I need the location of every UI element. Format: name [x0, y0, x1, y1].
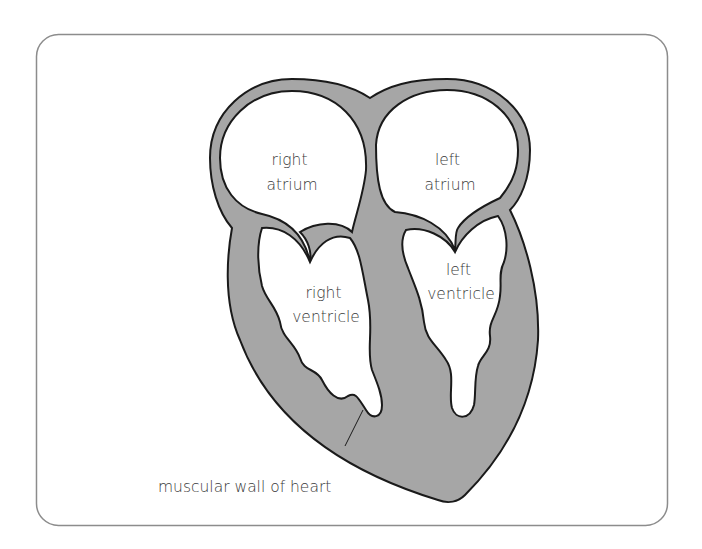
label-muscular-wall: muscular wall of heart — [158, 478, 331, 496]
heart-diagram: right atrium left atrium right ventricle… — [0, 0, 702, 549]
